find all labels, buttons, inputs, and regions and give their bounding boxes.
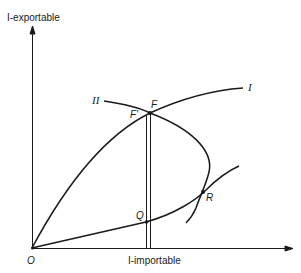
point-O [31,247,34,250]
curve-II-label: II [92,95,99,105]
curve-I-label: I [248,82,252,92]
point-Q-label: Q [136,211,144,221]
curve-II [104,101,210,223]
point-R-label: R [206,193,213,203]
diagram-canvas [0,0,301,273]
x-axis-label: I-importable [128,256,181,266]
origin-label: O [27,256,35,266]
x-axis-arrowhead [285,246,293,251]
y-axis-arrowhead [30,26,35,34]
point-F-prime-label: F' [130,110,138,120]
point-Q [145,220,149,224]
point-R [201,190,205,194]
point-F-label: F [151,100,157,110]
y-axis-label: I-exportable [7,13,60,23]
point-F [148,111,152,115]
